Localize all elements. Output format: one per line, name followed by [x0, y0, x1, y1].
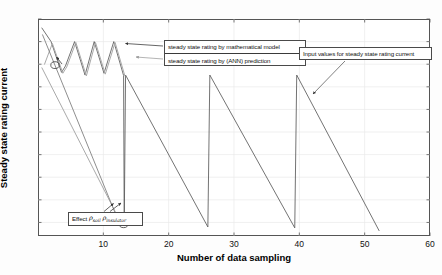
legend-item-ann: steady state rating by (ANN) prediction: [165, 54, 305, 67]
x-tick-label: 10: [99, 239, 108, 249]
legend-item-ann-label: steady state rating by (ANN) prediction: [168, 57, 270, 65]
x-tick-label: 30: [229, 239, 238, 249]
x-axis-title: Number of data sampling: [177, 252, 291, 263]
effect-callout: Effect ρsoil ρinsulator: [68, 212, 143, 226]
x-tick-label: 40: [295, 239, 304, 249]
x-tick-label: 50: [360, 239, 369, 249]
input-values-callout: Input values for steady state rating cur…: [299, 47, 432, 60]
x-tick-label: 60: [425, 239, 434, 249]
chart-screenshot: Steady state rating current Number of da…: [0, 0, 442, 275]
rho-soil-symbol: ρsoil: [89, 214, 100, 224]
legend: steady state rating by mathematical mode…: [164, 40, 306, 66]
rho-insulator-symbol: ρinsulator: [103, 214, 127, 224]
legend-item-model: steady state rating by mathematical mode…: [165, 41, 305, 54]
legend-item-model-label: steady state rating by mathematical mode…: [168, 43, 280, 51]
input-values-callout-label: Input values for steady state rating cur…: [303, 50, 414, 58]
y-axis-title: Steady state rating current: [0, 68, 9, 188]
effect-callout-prefix: Effect: [72, 215, 87, 223]
x-tick-label: 20: [164, 239, 173, 249]
